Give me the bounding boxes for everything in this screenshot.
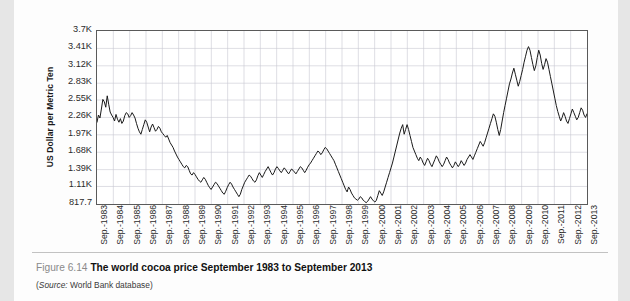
figure-source: (Source: World Bank database) [36, 280, 153, 290]
price-line-chart [97, 31, 587, 204]
figure-sheet: US Dollar per Metric Ten 3.7K3.41K3.12K2… [14, 0, 618, 301]
figure-caption: Figure 6.14 The world cocoa price Septem… [36, 262, 606, 274]
caption-divider [32, 252, 608, 253]
y-axis-tick-label: 2.55K [46, 94, 92, 103]
y-axis-tick-label: 2.26K [46, 111, 92, 120]
y-axis-tick-label: 1.68K [46, 146, 92, 155]
source-paren-close: ) [150, 280, 153, 290]
y-axis-tick-label: 1.97K [46, 129, 92, 138]
page-background: US Dollar per Metric Ten 3.7K3.41K3.12K2… [0, 0, 630, 301]
source-label: Source: [39, 280, 68, 290]
caption-title: The world cocoa price September 1983 to … [90, 262, 372, 273]
y-axis-tick-label: 2.83K [46, 77, 92, 86]
caption-figure-number: Figure 6.14 [36, 262, 88, 273]
y-axis-tick-label: 1.11K [46, 180, 92, 189]
source-value: World Bank database [70, 280, 150, 290]
y-axis-tick-label: 817.7 [46, 198, 92, 207]
y-axis-tick-labels: 3.7K3.41K3.12K2.83K2.55K2.26K1.97K1.68K1… [42, 4, 92, 252]
y-axis-tick-label: 3.41K [46, 42, 92, 51]
plot-area [96, 30, 588, 205]
chart-figure: US Dollar per Metric Ten 3.7K3.41K3.12K2… [14, 4, 618, 252]
y-axis-tick-label: 3.12K [46, 60, 92, 69]
y-axis-tick-label: 3.7K [46, 25, 92, 34]
y-axis-tick-label: 1.39K [46, 164, 92, 173]
